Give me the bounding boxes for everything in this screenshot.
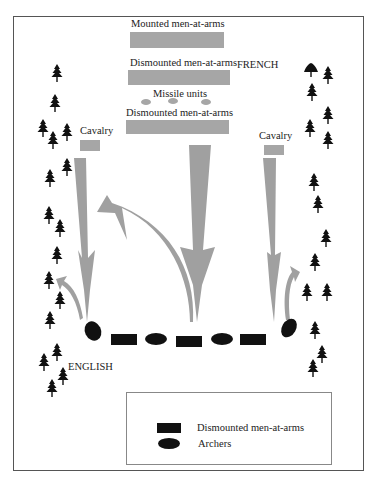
dismounted-men-at-arms-bar-1 (128, 70, 230, 85)
center-retreat-curve-arrow (97, 195, 193, 322)
men-at-arms-3 (240, 334, 266, 345)
legend-item-men-at-arms: Dismounted men-at-arms (157, 422, 304, 433)
legend-item-archers: Archers (157, 438, 231, 449)
archers-right-flank (278, 316, 300, 340)
missile-unit-3 (201, 99, 211, 105)
archers-left-flank (82, 319, 105, 344)
legend: Dismounted men-at-arms Archers (126, 392, 332, 465)
right-cavalry-arrow (263, 158, 281, 322)
label-dismounted-men-at-arms-1: Dismounted men-at-arms (130, 58, 237, 69)
forest-left (38, 64, 73, 397)
men-at-arms-2 (176, 336, 202, 347)
label-french: FRENCH (237, 60, 278, 71)
men-at-arms-1 (111, 334, 137, 345)
label-missile-units: Missile units (153, 89, 207, 100)
right-cavalry-bar (264, 145, 284, 155)
archers-1 (145, 333, 167, 345)
rectangle-swatch-icon (157, 423, 181, 433)
label-mounted-men-at-arms: Mounted men-at-arms (131, 19, 225, 30)
missile-unit-1 (141, 99, 151, 105)
label-right-cavalry: Cavalry (259, 131, 292, 142)
legend-label: Archers (198, 438, 231, 449)
mounted-men-at-arms-bar (130, 32, 224, 48)
ellipse-swatch-icon (158, 438, 180, 449)
label-left-cavalry: Cavalry (80, 126, 113, 137)
dismounted-men-at-arms-bar-2 (126, 120, 229, 134)
right-flank-curve-arrow (285, 266, 300, 320)
forest-right (302, 63, 334, 377)
movement-arrows (56, 145, 300, 322)
center-advance-arrow (180, 145, 215, 322)
legend-label: Dismounted men-at-arms (197, 422, 304, 433)
archers-2 (211, 333, 233, 345)
left-cavalry-bar (80, 140, 100, 151)
label-dismounted-men-at-arms-2: Dismounted men-at-arms (126, 108, 233, 119)
label-english: ENGLISH (68, 362, 113, 373)
